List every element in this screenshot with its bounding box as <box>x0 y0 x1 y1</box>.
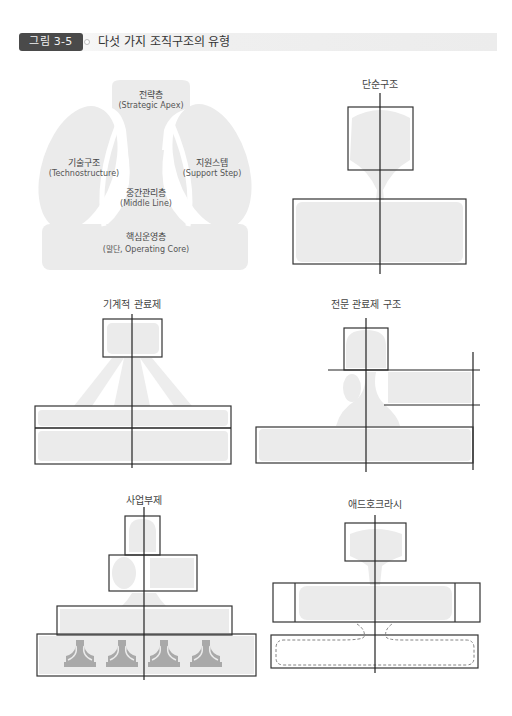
label-ko: 전략층 <box>110 88 192 101</box>
title-professional-bureaucracy: 전문 관료제 구조 <box>306 296 426 311</box>
title-adhocracy: 애드호크라시 <box>315 496 435 511</box>
label-operating-core: 핵심운영층 (말단, Operating Core) <box>90 230 202 254</box>
label-ko: 기술구조 <box>48 156 120 169</box>
label-strategic-apex: 전략층 (Strategic Apex) <box>110 88 192 110</box>
label-middle-line: 중간관리층 (Middle Line) <box>110 186 182 208</box>
title-simple-structure: 단순구조 <box>320 76 440 91</box>
label-ko: 중간관리층 <box>110 186 182 199</box>
label-support-staff: 지원스텝 (Support Step) <box>176 156 248 178</box>
label-en: (말단, Operating Core) <box>90 243 202 254</box>
label-en: (Middle Line) <box>110 199 182 208</box>
label-en: (Strategic Apex) <box>110 101 192 110</box>
divisional-structure-diagram <box>37 507 256 680</box>
title-machine-bureaucracy: 기계적 관료제 <box>72 296 192 311</box>
title-divisional-structure: 사업부제 <box>84 492 204 507</box>
diagram-canvas <box>0 0 512 716</box>
label-en: (Technostructure) <box>48 169 120 178</box>
label-technostructure: 기술구조 (Technostructure) <box>48 156 120 178</box>
machine-bureaucracy-diagram <box>35 314 231 468</box>
label-ko: 지원스텝 <box>176 156 248 169</box>
label-en: (Support Step) <box>176 169 248 178</box>
professional-bureaucracy-diagram <box>256 318 480 472</box>
adhocracy-diagram <box>271 515 480 673</box>
label-ko: 핵심운영층 <box>90 230 202 243</box>
simple-structure-diagram <box>293 93 466 274</box>
